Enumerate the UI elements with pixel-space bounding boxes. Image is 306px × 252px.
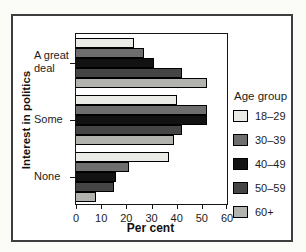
legend-label-60+: 60+ — [255, 206, 274, 218]
legend-item-18–29: 18–29 — [233, 110, 286, 122]
legend-title: Age group — [234, 90, 287, 102]
figure-page: 0102030405060 Interest in politics Per c… — [0, 0, 306, 252]
category-label-none: None — [34, 170, 74, 183]
bar-60+-some — [76, 135, 174, 145]
y-axis-title: Interest in politics — [20, 60, 34, 181]
legend-swatch-40–49 — [233, 158, 248, 170]
legend-label-50–59: 50–59 — [255, 182, 286, 194]
bar-50–59-some — [76, 125, 182, 135]
legend-item-50–59: 50–59 — [233, 182, 286, 194]
bar-40–49-a-great-deal — [76, 58, 154, 68]
x-axis-title: Per cent — [75, 221, 226, 235]
legend-label-40–49: 40–49 — [255, 158, 286, 170]
legend-swatch-30–39 — [233, 134, 248, 146]
x-tick-0 — [76, 204, 77, 209]
legend-swatch-60+ — [233, 206, 248, 218]
legend-label-30–39: 30–39 — [255, 134, 286, 146]
x-tick-10 — [101, 204, 102, 209]
bar-60+-none — [76, 192, 96, 202]
bar-30–39-some — [76, 105, 207, 115]
bar-40–49-none — [76, 172, 116, 182]
legend-item-30–39: 30–39 — [233, 134, 286, 146]
x-tick-40 — [177, 204, 178, 209]
x-tick-20 — [126, 204, 127, 209]
x-tick-60 — [226, 204, 227, 209]
legend-swatch-50–59 — [233, 182, 248, 194]
legend-item-60+: 60+ — [233, 206, 274, 218]
bar-50–59-a-great-deal — [76, 68, 182, 78]
category-label-a-great-deal: A great deal — [34, 49, 74, 75]
bar-18–29-none — [76, 152, 169, 162]
bar-18–29-a-great-deal — [76, 38, 134, 48]
legend-label-18–29: 18–29 — [255, 110, 286, 122]
bar-50–59-none — [76, 182, 114, 192]
bar-30–39-a-great-deal — [76, 48, 144, 58]
bar-30–39-none — [76, 162, 129, 172]
plot-area: 0102030405060 — [75, 33, 228, 205]
x-tick-50 — [202, 204, 203, 209]
legend-swatch-18–29 — [233, 110, 248, 122]
bar-60+-a-great-deal — [76, 78, 207, 88]
bar-18–29-some — [76, 95, 177, 105]
bar-40–49-some — [76, 115, 207, 125]
legend-item-40–49: 40–49 — [233, 158, 286, 170]
category-label-some: Some — [34, 113, 74, 126]
x-tick-30 — [152, 204, 153, 209]
